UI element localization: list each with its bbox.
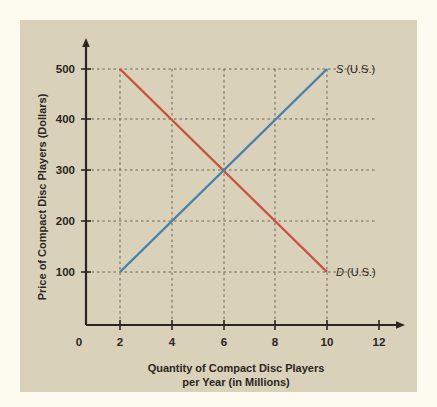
y-tick-label-400: 400 xyxy=(56,113,75,125)
x-tick-label-12: 12 xyxy=(373,336,386,348)
demand-label-symbol: D xyxy=(336,266,344,278)
y-axis-title: Price of Compact Disc Players (Dollars) xyxy=(36,93,48,300)
supply-demand-chart: 500 400 300 200 100 0 2 4 6 8 10 12 xyxy=(20,20,417,392)
demand-label-suffix: (U.S.) xyxy=(344,266,376,278)
supply-curve-label: S (U.S.) xyxy=(336,63,375,75)
demand-curve-label: D (U.S.) xyxy=(336,266,376,278)
x-axis-title-line1: Quantity of Compact Disc Players xyxy=(148,362,325,374)
y-tick-label-100: 100 xyxy=(56,266,75,278)
horizontal-gridlines xyxy=(86,69,377,272)
vertical-gridlines xyxy=(120,69,327,325)
figure-container: 500 400 300 200 100 0 2 4 6 8 10 12 xyxy=(0,0,437,407)
axes xyxy=(82,38,405,329)
x-tick-label-8: 8 xyxy=(272,336,279,348)
gridlines xyxy=(86,69,377,325)
x-tick-label-10: 10 xyxy=(321,336,334,348)
supply-label-suffix: (U.S.) xyxy=(343,63,375,75)
y-tick-label-300: 300 xyxy=(56,164,75,176)
y-axis-arrow-icon xyxy=(82,38,90,47)
x-tick-label-2: 2 xyxy=(117,336,123,348)
x-tick-label-0: 0 xyxy=(76,336,82,348)
x-tick-label-6: 6 xyxy=(221,336,227,348)
svg-text:D (U.S.): D (U.S.) xyxy=(336,266,376,278)
x-axis-arrow-icon xyxy=(396,321,405,329)
x-tick-labels: 0 2 4 6 8 10 12 xyxy=(76,336,386,348)
chart-panel: 500 400 300 200 100 0 2 4 6 8 10 12 xyxy=(20,20,417,392)
y-tick-labels: 500 400 300 200 100 xyxy=(56,63,75,278)
y-tick-label-200: 200 xyxy=(56,215,75,227)
x-tick-label-4: 4 xyxy=(169,336,176,348)
x-axis-title-line2: per Year (in Millions) xyxy=(182,376,290,388)
y-tick-label-500: 500 xyxy=(56,63,75,75)
svg-text:S (U.S.): S (U.S.) xyxy=(336,63,375,75)
